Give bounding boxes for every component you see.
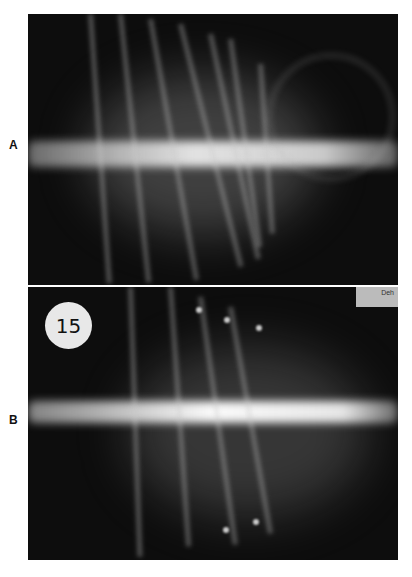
corner-tag: Deh bbox=[356, 287, 398, 307]
rib-tip bbox=[256, 325, 262, 331]
rib-tip bbox=[223, 527, 229, 533]
rib-tip bbox=[224, 317, 230, 323]
chest-glow bbox=[128, 347, 368, 517]
xray-panel-a bbox=[28, 14, 398, 285]
rib-arc bbox=[268, 54, 394, 180]
xray-panel-b: 15 Deh bbox=[28, 287, 398, 560]
rib-tip bbox=[196, 307, 202, 313]
panel-label-a: A bbox=[9, 138, 18, 152]
panel-label-b: B bbox=[9, 413, 18, 427]
specimen-number-marker: 15 bbox=[45, 302, 92, 349]
rib-tip bbox=[253, 519, 259, 525]
